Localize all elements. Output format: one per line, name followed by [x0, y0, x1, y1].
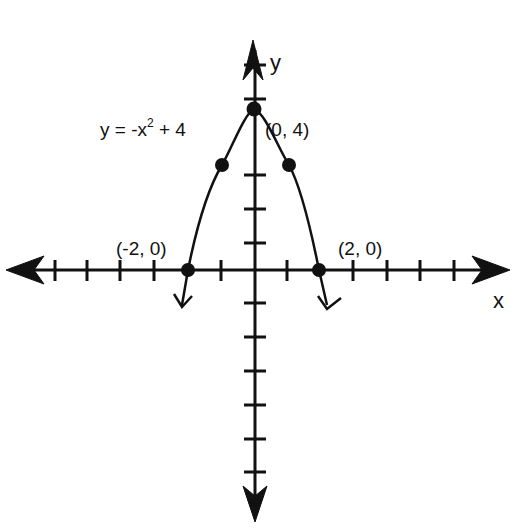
point-plus-one	[282, 158, 296, 172]
x-axis-label: x	[493, 288, 504, 313]
equation-label: y = -x2 + 4	[100, 116, 186, 140]
vertex-label: (0, 4)	[265, 119, 309, 140]
point-minus-one	[215, 158, 229, 172]
x-axis	[6, 256, 510, 284]
right-root-label: (2, 0)	[338, 238, 382, 259]
y-axis-label: y	[270, 50, 281, 75]
y-axis-up-arrow-icon	[243, 40, 263, 80]
point-left-root	[181, 263, 195, 277]
parabola-graph: y x y = -x2 + 4 (0, 4) (-2, 0) (2, 0)	[0, 0, 519, 531]
point-right-root	[312, 263, 326, 277]
curve-right-arrow-icon	[318, 296, 341, 309]
left-root-label: (-2, 0)	[116, 238, 167, 259]
point-vertex	[247, 102, 262, 117]
